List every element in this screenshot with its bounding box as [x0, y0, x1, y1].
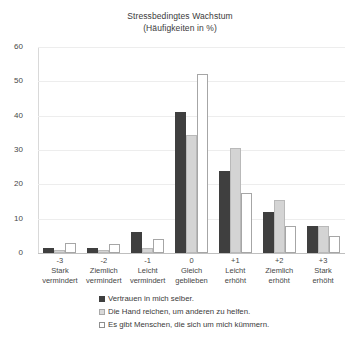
bar-group	[257, 47, 301, 253]
x-tick-caption: vermindert	[38, 276, 82, 286]
bar	[318, 226, 329, 253]
bar-group	[126, 47, 170, 253]
gridline	[38, 253, 345, 254]
bar	[54, 250, 65, 253]
chart-title-block: Stressbedingtes Wachstum (Häufigkeiten i…	[0, 10, 360, 34]
y-axis-tick-label: 40	[0, 111, 23, 120]
bar	[241, 193, 252, 253]
x-axis-tick-label: -3Starkvermindert	[38, 256, 82, 286]
y-axis-tick-label: 20	[0, 179, 23, 188]
x-tick-caption: Stark	[38, 266, 82, 276]
x-tick-caption: vermindert	[82, 276, 126, 286]
bar	[131, 232, 142, 253]
bar-group	[82, 47, 126, 253]
bar	[329, 236, 340, 253]
y-axis-tick-label: 10	[0, 214, 23, 223]
bar	[186, 135, 197, 253]
bar-group	[170, 47, 214, 253]
x-axis-tick-labels: -3Starkvermindert-2Ziemlichvermindert-1L…	[38, 256, 345, 286]
x-tick-value: -3	[38, 256, 82, 266]
bar	[175, 112, 186, 253]
x-tick-value: +3	[301, 256, 345, 266]
x-tick-caption: erhöht	[301, 276, 345, 286]
x-tick-caption: vermindert	[126, 276, 170, 286]
legend-swatch-icon	[99, 296, 105, 302]
chart-container: Stressbedingtes Wachstum (Häufigkeiten i…	[0, 0, 360, 350]
x-tick-value: +1	[213, 256, 257, 266]
bar-group	[213, 47, 257, 253]
plot-area: 0102030405060	[38, 47, 345, 253]
x-tick-caption: Gleich	[170, 266, 214, 276]
bar	[153, 239, 164, 253]
bar	[65, 243, 76, 253]
legend-item[interactable]: Vertrauen in mich selber.	[99, 292, 349, 305]
legend-swatch-icon	[99, 309, 105, 315]
x-tick-caption: erhöht	[257, 276, 301, 286]
legend-label: Vertrauen in mich selber.	[108, 294, 194, 304]
legend-label: Die Hand reichen, um anderen zu helfen.	[108, 307, 250, 317]
chart-legend: Vertrauen in mich selber.Die Hand reiche…	[99, 292, 349, 331]
bar	[43, 248, 54, 253]
bar	[142, 248, 153, 253]
legend-item[interactable]: Die Hand reichen, um anderen zu helfen.	[99, 305, 349, 318]
y-axis-tick-label: 0	[0, 248, 23, 257]
chart-subtitle: (Häufigkeiten in %)	[0, 22, 360, 34]
x-tick-value: +2	[257, 256, 301, 266]
y-axis-tick-label: 30	[0, 145, 23, 154]
bar	[285, 226, 296, 253]
x-tick-caption: Leicht	[126, 266, 170, 276]
x-axis-tick-label: -1Leichtvermindert	[126, 256, 170, 286]
y-axis-tick-label: 50	[0, 76, 23, 85]
bar-group	[301, 47, 345, 253]
bar	[307, 226, 318, 253]
x-tick-caption: erhöht	[213, 276, 257, 286]
x-axis-tick-label: +3Starkerhöht	[301, 256, 345, 286]
bar-group	[38, 47, 82, 253]
bar	[109, 244, 120, 253]
x-axis-tick-label: +2Ziemlicherhöht	[257, 256, 301, 286]
x-axis-tick-label: 0Gleichgeblieben	[170, 256, 214, 286]
bar	[274, 200, 285, 253]
bar-groups	[38, 47, 345, 253]
x-tick-value: 0	[170, 256, 214, 266]
bar	[197, 74, 208, 253]
x-tick-caption: geblieben	[170, 276, 214, 286]
x-tick-caption: Ziemlich	[257, 266, 301, 276]
bar	[98, 250, 109, 253]
x-tick-value: -1	[126, 256, 170, 266]
bar	[230, 148, 241, 253]
bar	[263, 212, 274, 253]
legend-swatch-icon	[99, 322, 105, 328]
chart-title: Stressbedingtes Wachstum	[0, 10, 360, 22]
y-axis-tick-label: 60	[0, 42, 23, 51]
legend-item[interactable]: Es gibt Menschen, die sich um mich kümme…	[99, 318, 349, 331]
x-axis-tick-label: -2Ziemlichvermindert	[82, 256, 126, 286]
x-tick-caption: Stark	[301, 266, 345, 276]
x-tick-caption: Leicht	[213, 266, 257, 276]
bar	[219, 171, 230, 253]
x-tick-caption: Ziemlich	[82, 266, 126, 276]
x-tick-value: -2	[82, 256, 126, 266]
bar	[87, 248, 98, 253]
x-axis-tick-label: +1Leichterhöht	[213, 256, 257, 286]
legend-label: Es gibt Menschen, die sich um mich kümme…	[108, 320, 269, 330]
